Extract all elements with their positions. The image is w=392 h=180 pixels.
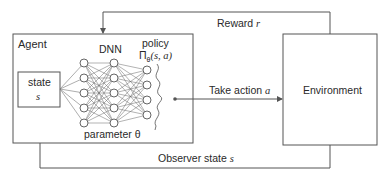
dnn-node [143, 81, 151, 89]
reward-label: Reward r [217, 17, 260, 30]
dnn-node [80, 119, 88, 127]
dnn-node [143, 96, 151, 104]
parameter-label: parameter θ [84, 128, 141, 140]
agent-label: Agent [18, 38, 47, 50]
dnn-node [110, 74, 118, 82]
observation-label: Observer state s [158, 152, 234, 165]
dnn-node [110, 119, 118, 127]
state-symbol: s [36, 91, 40, 103]
dnn-node [143, 66, 151, 74]
policy-formula: Πθ(s, a) [139, 49, 172, 66]
dnn-node [143, 111, 151, 119]
action-text: Take action [209, 84, 262, 96]
action-label: Take action a [209, 84, 270, 97]
policy-label: policy [142, 37, 169, 49]
dnn-node [110, 89, 118, 97]
dnn-label: DNN [99, 43, 122, 55]
dnn-node [110, 104, 118, 112]
observation-text: Observer state [158, 152, 227, 164]
action-output-dot [173, 97, 177, 101]
observation-symbol: s [230, 153, 234, 164]
action-symbol: a [265, 85, 270, 96]
dnn-node [110, 59, 118, 67]
environment-label: Environment [303, 84, 362, 96]
reward-symbol: r [256, 18, 260, 29]
state-label: state [28, 76, 51, 88]
dnn-node [80, 74, 88, 82]
policy-args: (s, a) [151, 50, 173, 61]
policy-symbol: Π [139, 49, 147, 61]
reward-text: Reward [217, 17, 253, 29]
dnn-node [80, 104, 88, 112]
dnn-node [80, 59, 88, 67]
dnn-node [80, 89, 88, 97]
